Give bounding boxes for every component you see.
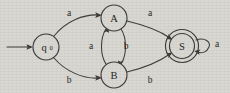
state-node-s[interactable]: S xyxy=(166,30,199,63)
edge-label-a-to-b: b xyxy=(124,41,129,51)
edge-label-q0-to-b: b xyxy=(67,75,72,85)
state-label-s: S xyxy=(179,41,185,52)
edge-label-a-to-s: a xyxy=(148,8,153,18)
transition-q0-to-a[interactable] xyxy=(54,12,102,36)
start-arrow xyxy=(7,44,33,50)
edge-label-b-to-a: a xyxy=(89,41,94,51)
transition-b-to-s[interactable] xyxy=(127,52,173,72)
state-sublabel-q0: 0 xyxy=(50,44,53,51)
state-label-a: A xyxy=(110,13,118,24)
edge-label-b-to-s: b xyxy=(148,75,153,85)
transition-b-to-a[interactable] xyxy=(102,27,110,64)
fsm-diagram-figure: q 0 A B S a b a b a b a xyxy=(0,0,230,93)
fsm-diagram-canvas: q 0 A B S a b a b a b a xyxy=(0,0,230,93)
edge-label-q0-to-a: a xyxy=(67,8,72,18)
edge-label-s-self-loop: a xyxy=(215,39,220,49)
state-node-q0[interactable]: q 0 xyxy=(33,34,59,60)
state-node-b[interactable]: B xyxy=(101,62,127,88)
transition-a-to-s[interactable] xyxy=(127,21,173,40)
state-label-b: B xyxy=(110,70,117,81)
state-label-q0: q xyxy=(41,42,47,53)
state-node-a[interactable]: A xyxy=(101,5,127,31)
transition-q0-to-b[interactable] xyxy=(54,58,102,81)
